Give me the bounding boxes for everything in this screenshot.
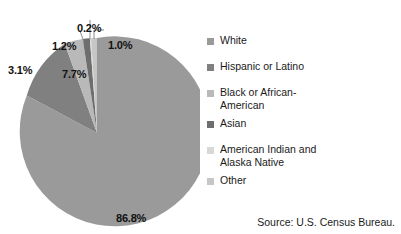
legend-swatch-icon — [207, 121, 214, 128]
legend-label-black-or-african-american-line2: American — [220, 99, 264, 111]
legend-item-other[interactable]: Other — [207, 174, 387, 187]
legend-label-asian: Asian — [220, 117, 246, 129]
slice-label-asian: 1.2% — [52, 40, 76, 52]
legend-item-american-indian-and-alaska-native[interactable]: American Indian and Alaska Native — [207, 143, 387, 169]
legend-label-american-indian-and-alaska-native: American Indian and — [220, 143, 316, 155]
legend-label-white: White — [220, 34, 247, 46]
slice-label-hispanic: 7.7% — [62, 68, 86, 80]
slice-label-black: 3.1% — [8, 64, 32, 76]
legend-item-white[interactable]: White — [207, 34, 387, 47]
legend-label-hispanic-or-latino: Hispanic or Latino — [220, 60, 304, 72]
slice-label-white: 86.8% — [116, 212, 146, 224]
legend-item-black-or-african-american[interactable]: Black or African- American — [207, 86, 387, 112]
legend-label-american-indian-and-alaska-native-line2: Alaska Native — [220, 156, 284, 168]
pie-chart-figure: 86.8% 7.7% 3.1% 1.2% 0.2% 1.0% White His… — [0, 0, 401, 234]
legend-item-asian[interactable]: Asian — [207, 117, 387, 130]
legend-swatch-icon — [207, 147, 214, 154]
slice-label-other: 1.0% — [108, 39, 132, 51]
legend-swatch-icon — [207, 64, 214, 71]
chart-legend: White Hispanic or Latino Black or Africa… — [207, 34, 387, 200]
legend-swatch-icon — [207, 90, 214, 97]
legend-label-other: Other — [220, 174, 246, 186]
legend-swatch-icon — [207, 178, 214, 185]
pie-plot-area: 86.8% 7.7% 3.1% 1.2% 0.2% 1.0% — [0, 20, 200, 234]
legend-item-hispanic-or-latino[interactable]: Hispanic or Latino — [207, 60, 387, 73]
source-note: Source: U.S. Census Bureau. — [257, 216, 395, 228]
slice-label-american-indian: 0.2% — [77, 22, 101, 34]
legend-swatch-icon — [207, 38, 214, 45]
pie-svg — [0, 20, 200, 234]
legend-label-black-or-african-american: Black or African- — [220, 86, 296, 98]
